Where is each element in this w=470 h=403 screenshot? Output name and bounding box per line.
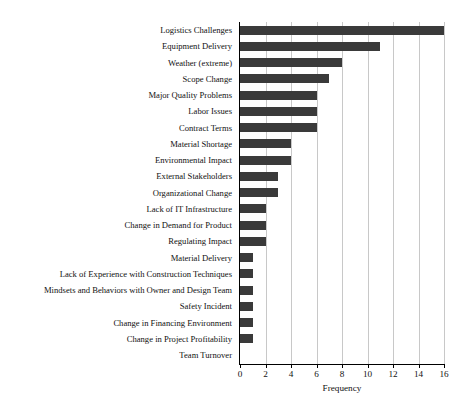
category-label: Lack of IT Infrastructure [0, 204, 232, 214]
x-tick-mark [240, 364, 241, 368]
category-label: Change in Financing Environment [0, 318, 232, 328]
x-tick-mark [317, 364, 318, 368]
bar [240, 42, 380, 51]
x-tick-label: 10 [356, 369, 380, 380]
category-label: Change in Project Profitability [0, 334, 232, 344]
category-label: Material Shortage [0, 139, 232, 149]
bar [240, 74, 329, 83]
category-label: Mindsets and Behaviors with Owner and De… [0, 285, 232, 295]
x-tick-label: 16 [432, 369, 456, 380]
category-label: Lack of Experience with Construction Tec… [0, 269, 232, 279]
bar [240, 286, 253, 295]
category-label: Organizational Change [0, 188, 232, 198]
bar [240, 253, 253, 262]
x-tick-label: 12 [381, 369, 405, 380]
category-label: Regulating Impact [0, 236, 232, 246]
category-label: Change in Demand for Product [0, 220, 232, 230]
x-tick-label: 14 [407, 369, 431, 380]
x-tick-label: 4 [279, 369, 303, 380]
frequency-bar-chart: Logistics ChallengesEquipment DeliveryWe… [0, 0, 470, 403]
category-label: Team Turnover [0, 350, 232, 360]
x-tick-mark [342, 364, 343, 368]
bar [240, 123, 317, 132]
category-label: External Stakeholders [0, 171, 232, 181]
category-label: Labor Issues [0, 106, 232, 116]
bar [240, 156, 291, 165]
category-axis: Logistics ChallengesEquipment DeliveryWe… [0, 22, 236, 364]
category-label: Equipment Delivery [0, 41, 232, 51]
x-tick-mark [291, 364, 292, 368]
bar [240, 237, 266, 246]
x-tick-label: 8 [330, 369, 354, 380]
category-label: Contract Terms [0, 123, 232, 133]
x-tick-mark [368, 364, 369, 368]
category-label: Major Quality Problems [0, 90, 232, 100]
category-label: Material Delivery [0, 253, 232, 263]
gridline [444, 22, 445, 364]
x-tick-label: 2 [254, 369, 278, 380]
bar [240, 318, 253, 327]
x-tick-label: 0 [228, 369, 252, 380]
bar [240, 221, 266, 230]
x-tick-mark [266, 364, 267, 368]
bar [240, 139, 291, 148]
category-label: Weather (extreme) [0, 58, 232, 68]
bar [240, 58, 342, 67]
bar [240, 302, 253, 311]
y-axis-line [239, 22, 240, 365]
bar-series [240, 22, 444, 364]
bar [240, 172, 278, 181]
bar [240, 334, 253, 343]
x-tick-label: 6 [305, 369, 329, 380]
x-tick-mark [393, 364, 394, 368]
x-axis-title: Frequency [240, 383, 444, 394]
category-label: Environmental Impact [0, 155, 232, 165]
bar [240, 107, 317, 116]
x-tick-mark [444, 364, 445, 368]
plot-area [240, 22, 444, 364]
category-label: Logistics Challenges [0, 25, 232, 35]
category-label: Safety Incident [0, 301, 232, 311]
category-label: Scope Change [0, 74, 232, 84]
x-axis-ticks: 0246810121416 [240, 364, 444, 378]
bar [240, 204, 266, 213]
bar [240, 26, 444, 35]
x-tick-mark [419, 364, 420, 368]
bar [240, 188, 278, 197]
bar [240, 269, 253, 278]
bar [240, 91, 317, 100]
